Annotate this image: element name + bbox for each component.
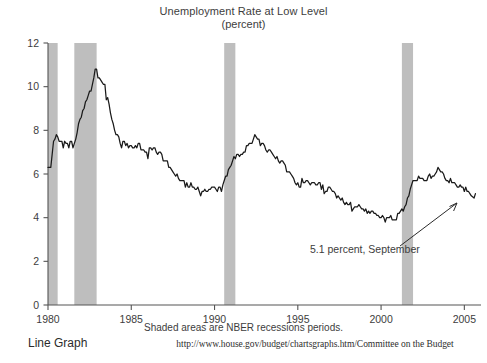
unemployment-chart: Unemployment Rate at Low Level (percent)…	[0, 0, 487, 363]
annotation-label: 5.1 percent, September	[310, 243, 420, 255]
y-tick-label: 8	[33, 124, 39, 136]
recession-band	[402, 43, 413, 305]
annotation-group: 5.1 percent, September	[310, 203, 457, 255]
recession-band	[48, 43, 58, 305]
y-tick-label: 10	[27, 80, 39, 92]
y-tick-label: 2	[33, 255, 39, 267]
graph-kind-label: Line Graph	[28, 336, 87, 350]
tick-marks-group	[44, 43, 465, 310]
y-tick-label: 0	[33, 299, 39, 311]
y-tick-label: 12	[27, 37, 39, 49]
chart-footnote: Shaded areas are NBER recessions periods…	[0, 322, 487, 333]
y-tick-label: 6	[33, 168, 39, 180]
plot-area: 024681012 198019851990199520002005 5.1 p…	[0, 0, 487, 363]
y-tick-label: 4	[33, 211, 39, 223]
axes-group	[48, 43, 481, 305]
recession-band	[224, 43, 235, 305]
source-url: http://www.house.gov/budget/chartsgraphs…	[143, 339, 487, 349]
y-axis-labels-group: 024681012	[27, 37, 39, 311]
